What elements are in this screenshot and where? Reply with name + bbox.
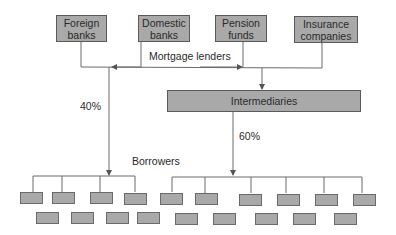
lender-label-line1: Foreign [64,17,100,29]
lender-box-foreign-banks: Foreignbanks [56,15,107,42]
borrower-box [334,213,357,225]
borrower-box [71,212,94,224]
lender-box-pension-funds: Pensionfunds [215,15,267,42]
borrower-box [160,193,183,205]
borrower-box [90,192,113,204]
mortgage-flow-diagram: Foreignbanks Domesticbanks Pensionfunds … [0,0,396,235]
lender-label-line1: Insurance [301,18,352,30]
lender-label-line1: Pension [222,17,260,29]
borrowers-label: Borrowers [132,155,180,167]
borrower-box [175,213,198,225]
lender-label-line2: banks [64,29,100,41]
borrower-box [52,192,75,204]
borrower-box [36,212,59,224]
borrower-box [195,193,218,205]
borrower-box [293,213,316,225]
lender-box-domestic-banks: Domesticbanks [138,15,190,42]
borrower-box [213,213,236,225]
lender-label-line2: funds [222,29,260,41]
lender-label-line1: Domestic [142,17,186,29]
borrower-box [20,192,43,204]
borrower-box [106,212,129,224]
intermediated-share-label: 60% [239,130,260,142]
lender-label-line2: banks [142,29,186,41]
borrower-box [277,194,300,206]
borrower-box [239,194,262,206]
intermediaries-box: Intermediaries [167,90,361,112]
lender-label-line2: companies [301,30,352,42]
borrower-box [353,194,376,206]
lender-box-insurance-companies: Insurancecompanies [294,16,358,43]
direct-share-label: 40% [80,100,101,112]
borrower-box [255,213,278,225]
borrower-box [124,193,147,205]
mortgage-lenders-label: Mortgage lenders [149,50,231,62]
borrower-box [137,212,160,224]
intermediaries-label: Intermediaries [231,95,298,107]
borrower-box [315,194,338,206]
